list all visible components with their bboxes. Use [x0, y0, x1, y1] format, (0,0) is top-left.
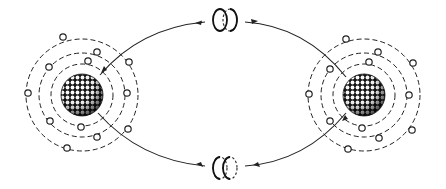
electron [306, 91, 312, 97]
electron [94, 49, 100, 55]
electron [25, 90, 31, 96]
electron [85, 58, 91, 64]
electron [366, 59, 372, 65]
arrow-icon [195, 21, 202, 26]
electron [359, 125, 365, 131]
electron [406, 92, 412, 98]
electron [375, 49, 381, 55]
electron [327, 118, 333, 124]
electron [60, 34, 66, 40]
nucleus-shading [343, 74, 385, 116]
electron [376, 135, 382, 141]
arrow-icon [101, 66, 107, 73]
electron [64, 145, 70, 151]
electron [124, 90, 130, 96]
top-left-path [100, 22, 205, 75]
electron [46, 64, 52, 70]
nucleus-shading [61, 74, 103, 116]
arrow-icon [253, 162, 260, 167]
bottom-left-path [98, 113, 205, 166]
arrow-icon [196, 162, 203, 167]
atom-exchange-diagram [0, 0, 446, 189]
atoms [25, 34, 420, 152]
electron [126, 59, 132, 65]
bottom-boson-icon [213, 157, 237, 179]
electron [345, 146, 351, 152]
electron [78, 124, 84, 130]
electron [327, 66, 333, 72]
electron [125, 126, 131, 132]
electron [410, 60, 416, 66]
electron [343, 36, 349, 42]
electron [47, 118, 53, 124]
left-atom [25, 34, 138, 151]
electron [94, 134, 100, 140]
electron [409, 127, 415, 133]
top-boson-icon [213, 9, 237, 31]
